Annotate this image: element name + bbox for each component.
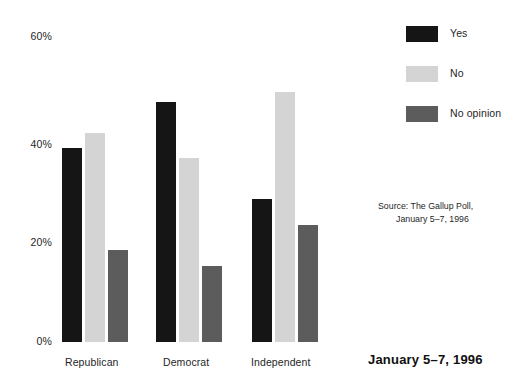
bar-group-independent xyxy=(252,36,338,342)
source-note-line-1: Source: The Gallup Poll, xyxy=(378,200,524,213)
y-axis: 60% 40% 20% 0% xyxy=(0,0,58,391)
bar-democrat-no xyxy=(179,158,199,342)
legend-swatch-no xyxy=(406,66,438,82)
y-tick-label-40: 40% xyxy=(30,139,52,150)
chart-title: January 5–7, 1996 xyxy=(368,353,483,366)
bar-group-republican xyxy=(62,36,148,342)
legend-item-no-opinion: No opinion xyxy=(406,106,526,146)
legend-item-no: No xyxy=(406,66,526,106)
legend-label-yes: Yes xyxy=(450,28,467,40)
x-tick-label-independent: Independent xyxy=(251,357,311,368)
legend-swatch-yes xyxy=(406,26,438,42)
y-tick-label-20: 20% xyxy=(30,237,52,248)
legend: Yes No No opinion xyxy=(406,26,526,146)
legend-label-no: No xyxy=(450,68,464,80)
bar-independent-no-opinion xyxy=(298,225,318,342)
bar-group-democrat xyxy=(156,36,242,342)
y-tick-label-0: 0% xyxy=(36,336,52,347)
legend-label-no-opinion: No opinion xyxy=(450,108,501,120)
bar-republican-yes xyxy=(62,148,82,342)
y-tick-label-60: 60% xyxy=(30,31,52,42)
bar-democrat-yes xyxy=(156,102,176,342)
source-note-line-2: January 5–7, 1996 xyxy=(378,213,524,226)
bar-independent-no xyxy=(275,92,295,342)
x-tick-label-democrat: Democrat xyxy=(163,357,209,368)
bar-republican-no xyxy=(85,133,105,342)
legend-item-yes: Yes xyxy=(406,26,526,66)
bar-independent-yes xyxy=(252,199,272,342)
bar-democrat-no-opinion xyxy=(202,266,222,343)
bar-republican-no-opinion xyxy=(108,250,128,342)
x-tick-label-republican: Republican xyxy=(65,357,119,368)
legend-swatch-no-opinion xyxy=(406,106,438,122)
plot-area: Republican Democrat Independent xyxy=(58,0,358,391)
bar-chart: 60% 40% 20% 0% Republican Democrat Indep… xyxy=(0,0,529,391)
source-note: Source: The Gallup Poll, January 5–7, 19… xyxy=(378,200,524,226)
